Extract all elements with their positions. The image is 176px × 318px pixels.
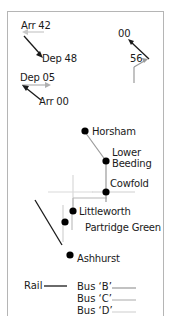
station-label-horsham[interactable]: Horsham bbox=[92, 126, 136, 137]
station-dot-cowfold[interactable] bbox=[102, 188, 109, 195]
legend-bus-d-label: Bus ‘D’ bbox=[77, 305, 113, 316]
legend-bus-c-label: Bus ‘C’ bbox=[77, 293, 112, 304]
label-dep-05: Dep 05 bbox=[20, 72, 55, 83]
label-dep-48: Dep 48 bbox=[42, 53, 77, 64]
station-label-ashhurst[interactable]: Ashhurst bbox=[77, 253, 120, 264]
station-dot-horsham[interactable] bbox=[81, 127, 88, 134]
label-arr-42: Arr 42 bbox=[21, 20, 51, 31]
rail-line-main bbox=[35, 200, 62, 245]
label-ne-56: 56 bbox=[130, 53, 142, 64]
station-dot-lower-beeding[interactable] bbox=[102, 157, 109, 164]
legend-bus-b-label: Bus ‘B’ bbox=[77, 281, 112, 292]
station-dot-partridge-green[interactable] bbox=[61, 218, 68, 225]
station-dot-ashhurst[interactable] bbox=[66, 251, 73, 258]
station-label-littleworth[interactable]: Littleworth bbox=[79, 206, 131, 217]
legend-rail-label: Rail bbox=[24, 280, 42, 291]
station-label-partridge-green[interactable]: Partridge Green bbox=[85, 222, 161, 233]
rail-line-nw-upper bbox=[24, 36, 40, 54]
label-ne-00: 00 bbox=[118, 28, 130, 39]
station-dot-littleworth[interactable] bbox=[69, 207, 76, 214]
station-label-cowfold[interactable]: Cowfold bbox=[110, 178, 149, 189]
station-label-lower-beeding-line2[interactable]: Beeding bbox=[112, 158, 152, 169]
station-label-lower-beeding-line1[interactable]: Lower bbox=[112, 147, 141, 158]
label-arr-00: Arr 00 bbox=[39, 96, 69, 107]
